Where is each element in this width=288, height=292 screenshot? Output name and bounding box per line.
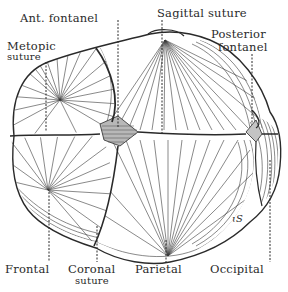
sagittal-suture-line	[10, 132, 278, 136]
label-posterior-fontanel: fontanel	[218, 41, 268, 53]
label-occipital: Occipital	[210, 263, 264, 275]
posterior-fontanel	[246, 120, 262, 142]
label-coronal: Coronal	[68, 263, 115, 275]
label-frontal: Frontal	[5, 263, 49, 275]
label-metopic-suture: suture	[7, 52, 41, 62]
label-coronal-suture: suture	[75, 276, 109, 286]
label-posterior: Posterior	[211, 28, 266, 40]
label-parietal: Parietal	[135, 263, 182, 275]
label-sagittal-suture: Sagittal suture	[157, 7, 247, 19]
anterior-fontanel	[100, 116, 138, 146]
coronal-suture-top	[96, 48, 115, 122]
artist-signature: ɩS	[232, 213, 243, 224]
label-ant-fontanel: Ant. fontanel	[20, 12, 98, 24]
skull-diagram: ɩS Ant. fontanel Sagittal suture Metopic…	[0, 0, 288, 292]
